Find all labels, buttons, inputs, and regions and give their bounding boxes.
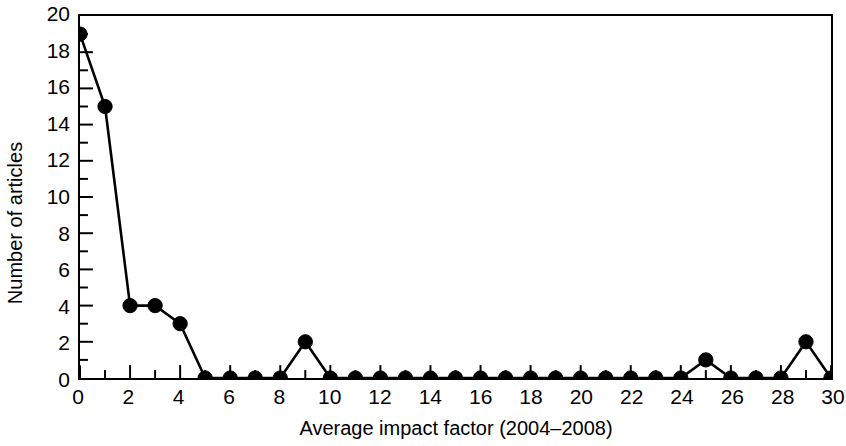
x-axis-tick-labels: 024681012141618202224262830: [78, 385, 833, 413]
x-tick-label: 2: [122, 385, 134, 409]
x-tick-label: 16: [469, 385, 492, 409]
x-tick-label: 26: [721, 385, 744, 409]
x-tick-label: 30: [821, 385, 844, 409]
y-tick-label: 4: [58, 295, 70, 319]
y-axis-tick-labels: 02468101214161820: [24, 14, 70, 380]
x-axis-title: Average impact factor (2004–2008): [78, 417, 834, 440]
y-tick-label: 8: [58, 222, 70, 246]
y-tick-label: 20: [47, 2, 70, 26]
x-tick-label: 0: [72, 385, 84, 409]
x-tick-label: 4: [173, 385, 185, 409]
y-tick-label: 16: [47, 75, 70, 99]
y-tick-label: 6: [58, 258, 70, 282]
x-tick-label: 24: [670, 385, 693, 409]
x-tick-label: 14: [419, 385, 442, 409]
x-tick-label: 10: [318, 385, 341, 409]
y-tick-label: 10: [47, 185, 70, 209]
x-tick-label: 8: [273, 385, 285, 409]
x-tick-label: 12: [368, 385, 391, 409]
y-tick-label: 14: [47, 112, 70, 136]
x-tick-label: 20: [570, 385, 593, 409]
y-tick-label: 12: [47, 148, 70, 172]
y-tick-label: 0: [58, 368, 70, 392]
x-tick-label: 28: [771, 385, 794, 409]
plot-area: [78, 14, 833, 380]
chart-figure: Number of articles 02468101214161820 024…: [0, 0, 846, 446]
x-tick-label: 22: [620, 385, 643, 409]
y-tick-label: 18: [47, 39, 70, 63]
x-tick-label: 6: [223, 385, 235, 409]
x-tick-label: 18: [519, 385, 542, 409]
y-tick-label: 2: [58, 331, 70, 355]
data-series-svg: [80, 16, 831, 378]
